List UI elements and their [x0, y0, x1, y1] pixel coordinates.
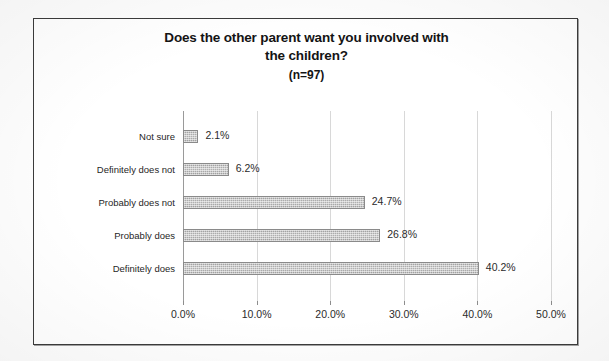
bar-probably-does [183, 229, 380, 242]
bar-definitely-does-not [183, 163, 229, 176]
chart-title-line-1: Does the other parent want you involved … [34, 29, 578, 47]
chart-frame: Does the other parent want you involved … [33, 18, 578, 345]
x-tick-mark [551, 301, 552, 305]
x-tick-mark [330, 301, 331, 305]
gridline-50.0% [551, 111, 552, 301]
x-tick-label: 50.0% [536, 307, 566, 321]
x-tick-mark [183, 301, 184, 305]
x-tick-mark [257, 301, 258, 305]
bar-row: 24.7% [183, 186, 551, 219]
chart-title-line-2: the children? [34, 47, 578, 65]
bar-value-label: 24.7% [372, 194, 402, 208]
bar-row: 2.1% [183, 120, 551, 153]
x-tick-label: 10.0% [242, 307, 272, 321]
x-tick-mark [404, 301, 405, 305]
bar-value-label: 40.2% [486, 260, 516, 274]
bar-value-label: 2.1% [205, 128, 229, 142]
category-label-definitely-does: Definitely does [33, 262, 175, 275]
bar-value-label: 26.8% [387, 227, 417, 241]
plot-area: 40.2%26.8%24.7%6.2%2.1% [183, 111, 551, 301]
x-tick-label: 40.0% [463, 307, 493, 321]
chart-title-block: Does the other parent want you involved … [34, 29, 578, 84]
bar-probably-does-not [183, 196, 365, 209]
category-label-not-sure: Not sure [33, 130, 175, 143]
y-axis-category-labels: Definitely doesProbably doesProbably doe… [33, 111, 175, 301]
x-tick-label: 30.0% [389, 307, 419, 321]
category-label-definitely-does-not: Definitely does not [33, 163, 175, 176]
bar-row: 40.2% [183, 252, 551, 285]
x-tick-label: 20.0% [315, 307, 345, 321]
category-label-probably-does-not: Probably does not [33, 196, 175, 209]
x-tick-label: 0.0% [171, 307, 195, 321]
bar-value-label: 6.2% [236, 161, 260, 175]
x-tick-mark [477, 301, 478, 305]
bar-not-sure [183, 130, 198, 143]
chart-subtitle-sample-size: (n=97) [34, 67, 578, 84]
x-axis-tick-labels: 0.0%10.0%20.0%30.0%40.0%50.0% [183, 307, 551, 327]
bar-definitely-does [183, 262, 479, 275]
bar-row: 26.8% [183, 219, 551, 252]
bar-row: 6.2% [183, 153, 551, 186]
category-label-probably-does: Probably does [33, 229, 175, 242]
